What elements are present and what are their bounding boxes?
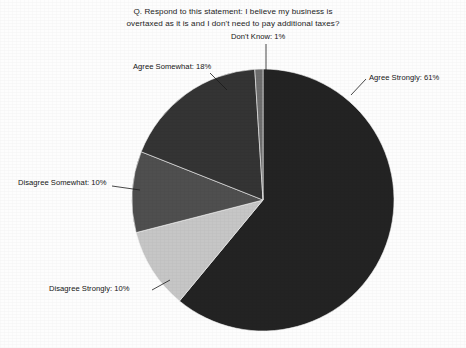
pie-label-disagree-strongly: Disagree Strongly: 10% — [49, 284, 130, 294]
pie-chart — [0, 0, 466, 348]
chart-page: Q. Respond to this statement: I believe … — [0, 0, 466, 348]
pie-slice-group — [132, 69, 394, 331]
pie-label-dont-know: Don't Know: 1% — [231, 32, 285, 42]
pie-label-agree-somewhat: Agree Somewhat: 18% — [133, 62, 211, 72]
pie-label-agree-strongly: Agree Strongly: 61% — [369, 73, 439, 83]
leader-line-agree-strongly — [351, 79, 366, 95]
pie-label-disagree-somewhat: Disagree Somewhat: 10% — [18, 178, 107, 188]
